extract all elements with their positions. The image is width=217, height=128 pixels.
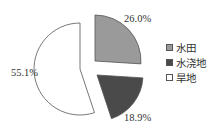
chart-legend: 水田 水浇地 旱地 (166, 40, 206, 85)
pie-percent-label: 18.9% (124, 112, 151, 123)
legend-item-paddy: 水田 (166, 40, 206, 55)
pie-percent-label: 26.0% (124, 13, 151, 24)
legend-label: 水田 (176, 40, 196, 55)
legend-label: 水浇地 (176, 55, 206, 70)
legend-label: 旱地 (176, 70, 196, 85)
legend-item-dryland: 旱地 (166, 70, 206, 85)
legend-item-irrigated: 水浇地 (166, 55, 206, 70)
legend-swatch-irrigated (166, 59, 173, 66)
pie-slice-dryland (34, 23, 94, 115)
pie-slices (34, 15, 143, 119)
legend-swatch-paddy (166, 44, 173, 51)
legend-swatch-dryland (166, 74, 173, 81)
pie-percent-label: 55.1% (11, 67, 38, 78)
